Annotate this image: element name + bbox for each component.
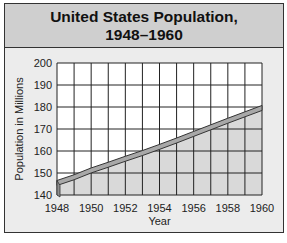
x-tick-label: 1956 <box>181 202 205 214</box>
y-tick-label: 160 <box>34 145 52 157</box>
chart-plot: 1401501601701801902001948195019521954195… <box>0 0 287 243</box>
x-tick-label: 1960 <box>250 202 274 214</box>
x-tick-label: 1950 <box>79 202 103 214</box>
x-tick-label: 1952 <box>113 202 137 214</box>
x-tick-label: 1954 <box>147 202 171 214</box>
y-tick-label: 140 <box>34 189 52 201</box>
y-tick-label: 150 <box>34 167 52 179</box>
y-tick-label: 180 <box>34 101 52 113</box>
y-tick-label: 190 <box>34 79 52 91</box>
x-tick-label: 1958 <box>216 202 240 214</box>
x-axis-label: Year <box>148 215 171 227</box>
x-tick-label: 1948 <box>45 202 69 214</box>
y-tick-label: 170 <box>34 123 52 135</box>
y-tick-label: 200 <box>34 57 52 69</box>
y-axis-label: Population in Millions <box>13 77 25 181</box>
